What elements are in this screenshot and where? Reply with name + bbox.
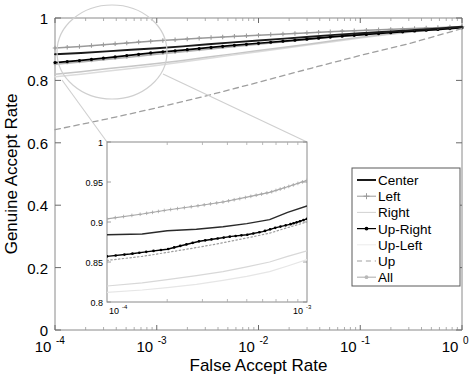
series-marker [295,221,298,224]
series-marker [145,250,148,253]
series-marker [222,236,225,239]
series-marker [364,28,369,33]
roc-chart-figure: 10-410-310-210-110000.20.40.60.81False A… [0,0,471,376]
series-marker [216,237,219,240]
legend-label: Up-Right [378,222,432,237]
series-marker [289,223,292,226]
x-tick-exponent: -4 [56,335,65,346]
series-marker [198,240,201,243]
series-marker [293,39,296,42]
inset-x-tick-exponent: -3 [306,304,312,310]
y-tick-label: 0.4 [27,197,48,214]
series-marker [328,29,333,33]
series-marker [101,42,106,47]
series-marker [102,57,105,60]
legend-label: All [378,270,393,285]
series-marker [257,42,260,45]
series-marker [185,243,188,246]
series-marker [305,31,310,36]
inset-y-tick-label: 0.95 [85,178,103,188]
series-marker [148,39,153,44]
x-tick-exponent: -3 [158,335,167,346]
magnifier-connector-2 [163,74,307,142]
series-marker [305,38,308,41]
series-marker [281,32,286,37]
legend-marker-swatch [365,227,369,231]
series-marker [123,253,126,256]
series-marker [292,222,295,225]
x-axis-title: False Accept Rate [190,356,328,375]
series-marker [77,44,82,49]
series-marker [284,224,287,227]
series-marker [220,35,225,40]
series-marker [234,235,237,238]
main-series-layer [53,24,465,130]
series-marker [114,55,117,58]
y-tick-labels: 00.20.40.60.81 [27,10,48,339]
series-marker [233,44,236,47]
series-marker [186,48,189,51]
series-marker [131,252,134,255]
roc-chart-svg: 10-410-310-210-110000.20.40.60.81False A… [0,0,471,376]
series-left [53,24,465,50]
series-marker [240,234,243,237]
x-tick-exponent: 0 [463,335,469,346]
inset-x-tick-exponent: -4 [122,304,128,310]
series-marker [160,249,163,252]
series-marker [299,220,302,223]
y-tick-label: 1 [40,10,48,27]
series-marker [306,217,309,220]
series-marker [274,227,277,230]
series-marker [53,61,56,64]
series-marker [125,41,130,46]
y-axis-title: Genuine Accept Rate [2,94,21,255]
inset-y-tick-label: 0.85 [85,258,103,268]
legend-marker-swatch [365,275,369,279]
legend-label: Left [378,189,401,204]
series-marker [89,43,94,48]
series-marker [245,43,248,46]
x-tick-exponent: -2 [260,335,269,346]
inset-y-tick-label: 0.9 [90,218,103,228]
inset-x-tick-label: 10 [293,306,303,316]
x-tick-labels: 10-410-310-210-1100 [35,335,469,355]
series-marker [149,51,152,54]
series-marker [179,245,182,248]
series-marker [136,40,141,45]
series-marker [191,242,194,245]
series-marker [161,50,164,53]
series-marker [185,37,190,42]
x-tick-label: 10 [35,338,52,355]
series-marker [210,238,213,241]
series-marker [204,239,207,242]
series-marker [137,53,140,56]
legend-label: Up-Left [378,238,423,253]
series-marker [316,30,321,35]
series-marker [279,225,282,228]
y-tick-label: 0 [40,322,48,339]
legend-label: Right [378,205,410,220]
series-marker [352,28,357,32]
series-marker [209,35,214,40]
series-marker [264,230,267,233]
series-marker [228,235,231,238]
inset-y-tick-label: 1 [98,138,103,148]
legend-label: Center [378,173,419,188]
series-marker [198,47,201,50]
series-marker [246,233,249,236]
legend[interactable]: CenterLeftRightUp-RightUp-LeftUpAll [352,168,460,286]
y-tick-label: 0.2 [27,260,48,277]
y-tick-label: 0.8 [27,72,48,89]
series-marker [65,45,70,50]
series-marker [269,228,272,231]
series-marker [340,29,345,34]
series-marker [293,31,298,36]
series-marker [302,219,305,222]
series-marker [197,36,202,41]
series-marker [268,32,273,37]
legend-label: Up [378,254,395,269]
series-marker [167,248,170,251]
series-marker [66,60,69,63]
series-marker [138,251,141,254]
series-marker [209,46,212,49]
